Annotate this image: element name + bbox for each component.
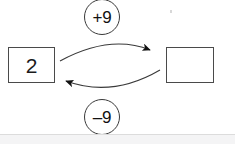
operation-subtract-label: –9 xyxy=(93,109,111,126)
arrow-add-nine xyxy=(60,44,150,61)
operation-bubble-subtract[interactable]: –9 xyxy=(84,99,120,135)
operation-add-label: +9 xyxy=(93,9,112,26)
start-value-box[interactable]: 2 xyxy=(8,47,55,83)
result-value-box[interactable] xyxy=(166,47,214,83)
footer-strip xyxy=(0,134,235,144)
diagram-canvas: 2 +9 –9 xyxy=(0,0,235,144)
start-value-text: 2 xyxy=(26,55,38,76)
artifact-speck xyxy=(170,10,172,13)
operation-bubble-add[interactable]: +9 xyxy=(84,0,120,35)
arrow-subtract-nine xyxy=(66,70,160,87)
